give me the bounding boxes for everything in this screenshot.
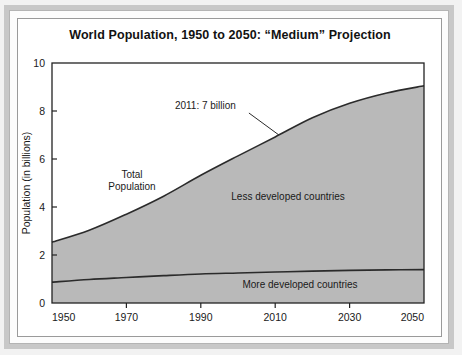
label-less-developed-countries: Less developed countries bbox=[231, 191, 344, 202]
y-axis-title: Population (in billions) bbox=[20, 132, 32, 235]
population-area-chart: 0246810 195019701990201020302050 Populat… bbox=[0, 0, 462, 355]
label-total-population-line1: Total bbox=[121, 169, 142, 180]
y-tick-label: 6 bbox=[39, 153, 45, 165]
x-tick-label: 1990 bbox=[189, 311, 213, 323]
x-tick-label: 1970 bbox=[115, 311, 139, 323]
annotation-2011-7-billion: 2011: 7 billion bbox=[175, 100, 236, 111]
label-total-population-line2: Population bbox=[108, 181, 155, 192]
scanned-page: World Population, 1950 to 2050: “Medium”… bbox=[0, 0, 462, 355]
x-tick-label: 2050 bbox=[401, 311, 425, 323]
y-tick-label: 0 bbox=[39, 297, 45, 309]
x-axis-ticks: 195019701990201020302050 bbox=[52, 303, 424, 323]
y-tick-label: 4 bbox=[39, 201, 45, 213]
y-tick-label: 10 bbox=[33, 57, 45, 69]
y-tick-label: 8 bbox=[39, 105, 45, 117]
y-tick-label: 2 bbox=[39, 249, 45, 261]
x-tick-label: 2010 bbox=[264, 311, 288, 323]
x-tick-label: 2030 bbox=[338, 311, 362, 323]
x-tick-label: 1950 bbox=[52, 311, 76, 323]
label-more-developed-countries: More developed countries bbox=[242, 279, 357, 290]
